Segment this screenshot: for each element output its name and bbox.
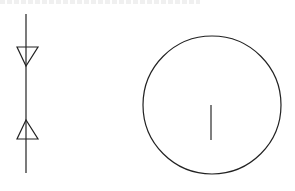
circle-outline: [143, 36, 281, 174]
triangle-down-icon: [17, 47, 38, 66]
symbol-circle-with-tick: [143, 36, 281, 174]
triangle-up-icon: [17, 120, 38, 139]
symbol-line-with-triangles: [17, 14, 38, 173]
diagram-canvas: [0, 0, 295, 191]
